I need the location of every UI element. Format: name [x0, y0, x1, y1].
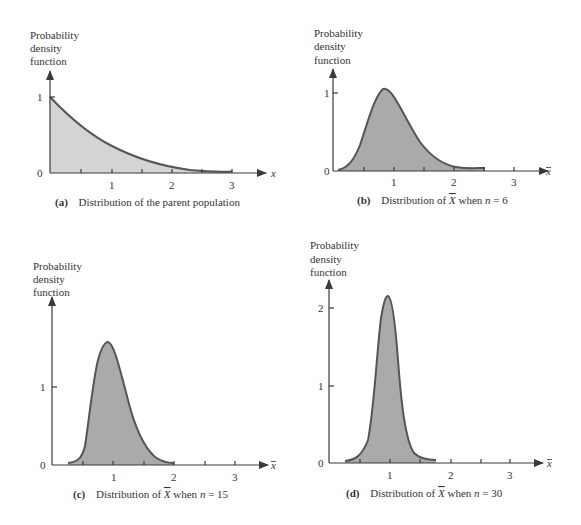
x-tick-label-1: 1	[109, 179, 115, 191]
y-tick-label-1: 1	[318, 380, 324, 392]
y-axis-label-line1: Probability	[314, 27, 363, 39]
svg-text:x: x	[546, 457, 552, 469]
y-axis-label-line1: Probability	[310, 239, 359, 251]
caption-c-label: (c)	[73, 488, 86, 501]
y-axis-label-line3: function	[33, 286, 70, 298]
y-axis-label-line1: Probability	[30, 29, 79, 41]
y-axis-label-line3: function	[30, 55, 67, 67]
x-tick-label-3: 3	[229, 179, 235, 191]
caption-c: (c) Distribution of X when n = 15	[73, 488, 229, 501]
caption-b-label: (b)	[357, 194, 371, 207]
panel-b: Probability density function 1 0 1 2 3 x…	[314, 27, 551, 207]
density-area	[345, 296, 436, 463]
y-tick-label-2: 2	[318, 302, 324, 314]
svg-text:x: x	[545, 165, 551, 177]
x-tick-label-2: 2	[448, 469, 454, 481]
x-tick-label-1: 1	[387, 469, 393, 481]
y-axis-label-line1: Probability	[33, 260, 82, 272]
x-tick-label-3: 3	[507, 469, 513, 481]
y-tick-label-0: 0	[37, 167, 43, 179]
y-axis-label-line2: density	[30, 42, 62, 54]
y-axis-label-line3: function	[314, 54, 351, 66]
caption-d-label: (d)	[346, 487, 360, 500]
x-tick-label-2: 2	[451, 176, 457, 188]
panel-d: Probability density function 2 1 0 1 2 3…	[310, 239, 552, 500]
x-tick-label-1: 1	[391, 176, 397, 188]
caption-b: (b) Distribution of X when n = 6	[357, 194, 508, 207]
x-tick-label-1: 1	[111, 471, 117, 483]
x-tick-label-3: 3	[511, 176, 517, 188]
x-tick-label-3: 3	[232, 471, 238, 483]
y-axis-label-line2: density	[33, 273, 65, 285]
svg-text:x: x	[270, 459, 276, 471]
x-axis-label: x	[270, 459, 276, 471]
caption-a: (a) Distribution of the parent populatio…	[55, 196, 240, 209]
panel-c: Probability density function 1 0 1 2 3 x…	[33, 260, 276, 501]
x-axis-label: x	[270, 167, 276, 179]
y-tick-label-0: 0	[40, 459, 46, 471]
y-tick-label-1: 1	[40, 381, 46, 393]
y-tick-label-1: 1	[37, 91, 43, 103]
caption-d: (d) Distribution of X when n = 30	[346, 487, 503, 500]
density-area	[50, 97, 232, 173]
y-tick-label-0: 0	[324, 165, 330, 177]
figure-canvas: Probability density function 1 0 1 2 3 x…	[0, 0, 581, 525]
y-tick-label-0: 0	[318, 457, 324, 469]
caption-a-label: (a)	[55, 196, 68, 209]
y-axis-label-line2: density	[310, 253, 342, 265]
y-tick-label-1: 1	[324, 87, 330, 99]
y-axis-label-line2: density	[314, 40, 346, 52]
y-axis-label-line3: function	[310, 266, 347, 278]
xbar-symbol: X	[437, 487, 446, 499]
xbar-symbol: X	[448, 194, 457, 206]
x-tick-label-2: 2	[171, 471, 177, 483]
x-axis-label: x	[545, 165, 551, 177]
caption-a-text: Distribution of the parent population	[79, 196, 241, 208]
x-axis-label: x	[546, 457, 552, 469]
x-tick-label-2: 2	[169, 179, 175, 191]
xbar-symbol: X	[163, 488, 172, 500]
panel-a: Probability density function 1 0 1 2 3 x…	[30, 29, 276, 209]
